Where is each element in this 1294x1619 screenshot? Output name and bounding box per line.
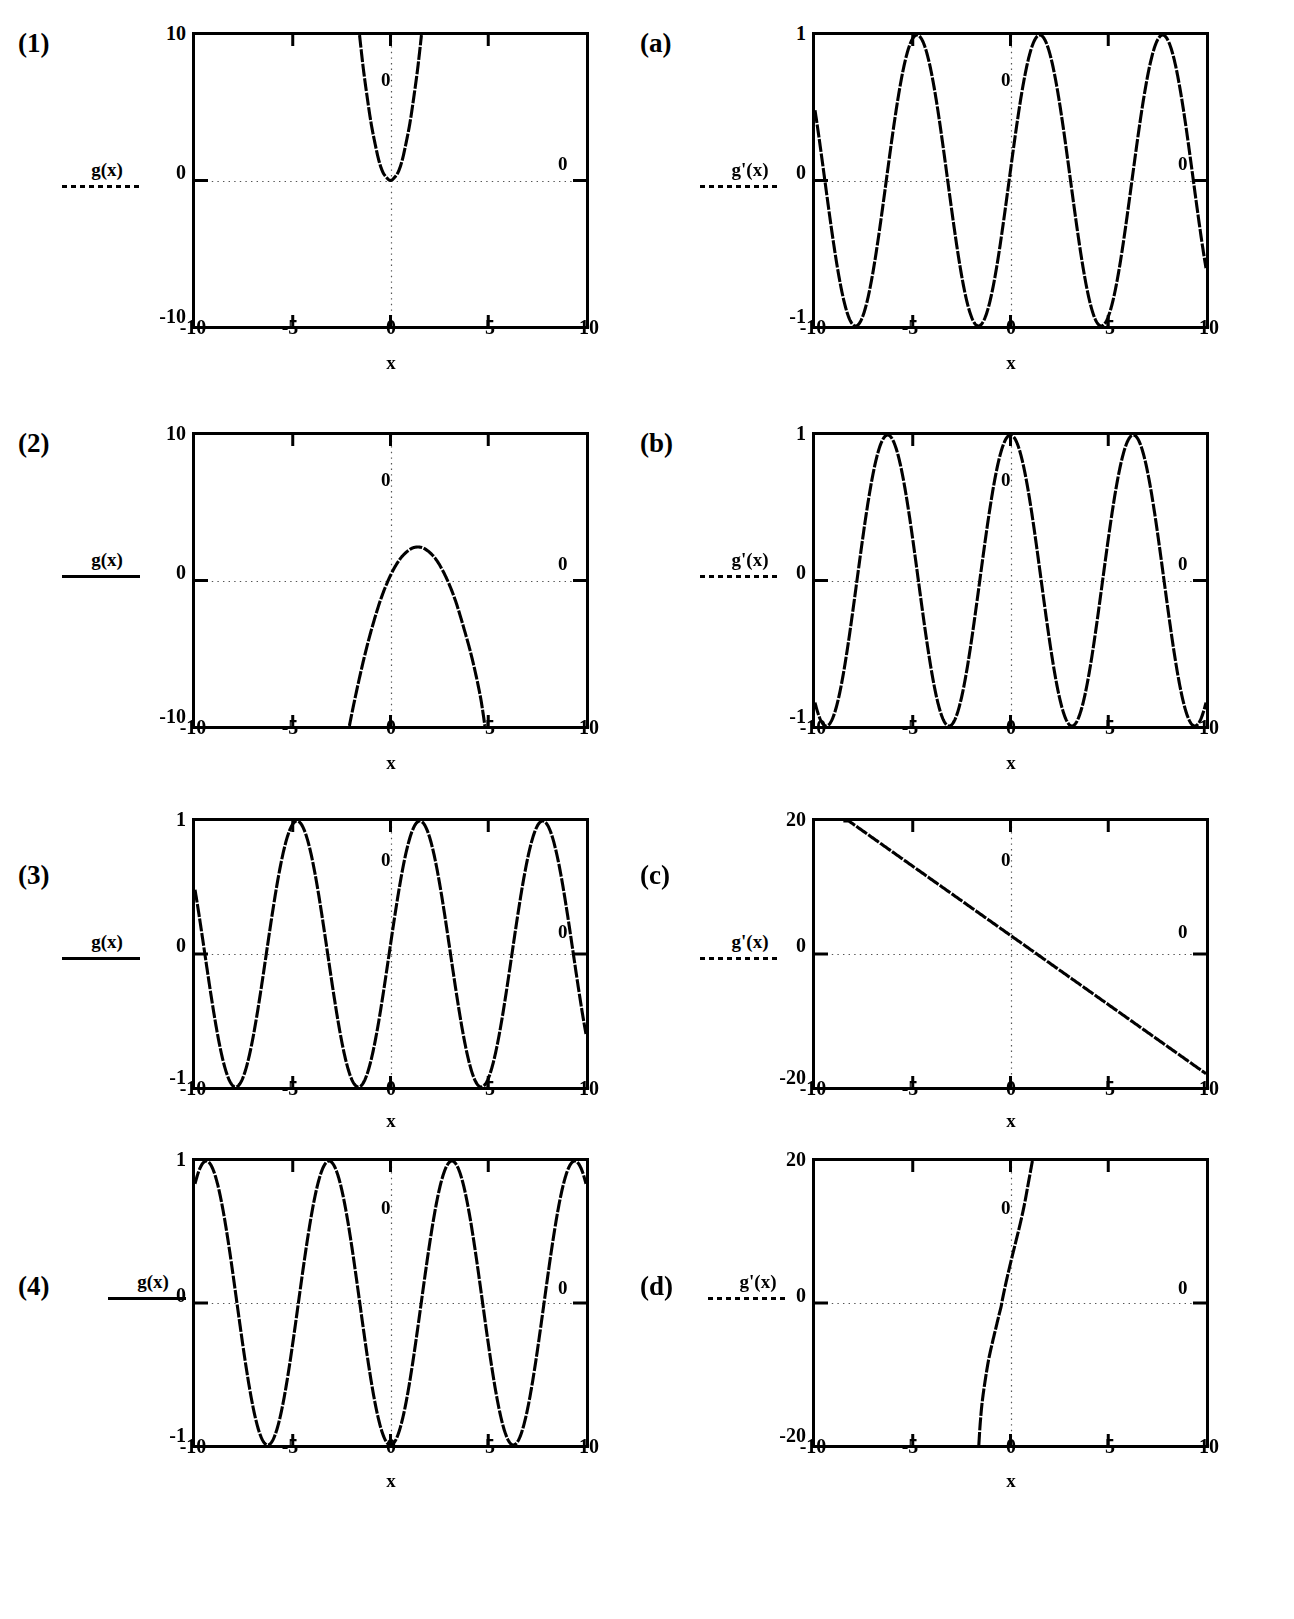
xaxis-title-3: x <box>361 1110 421 1132</box>
legend-rule-a <box>700 185 778 188</box>
inner-zero-top-b: 0 <box>1001 469 1011 491</box>
ytick-3-top: 1 <box>128 808 186 831</box>
panel-tag-4: (4) <box>18 1271 49 1302</box>
panel-tag-1: (1) <box>18 28 49 59</box>
inner-zero-top-4: 0 <box>381 1197 391 1219</box>
legend-rule-1 <box>62 185 140 188</box>
xtick-d-0: -10 <box>783 1435 843 1458</box>
xaxis-title-2: x <box>361 752 421 774</box>
xaxis-title-b: x <box>981 752 1041 774</box>
inner-zero-top-3: 0 <box>381 849 391 871</box>
xtick-2-4: 10 <box>559 716 619 739</box>
xtick-b-3: 5 <box>1080 716 1140 739</box>
xtick-b-0: -10 <box>783 716 843 739</box>
ytick-2-mid: 0 <box>128 561 186 584</box>
plot-frame-c: 0 0 <box>812 818 1209 1090</box>
ytick-1-top: 10 <box>128 22 186 45</box>
xtick-3-2: 0 <box>361 1077 421 1100</box>
xaxis-title-1: x <box>361 352 421 374</box>
xtick-4-0: -10 <box>163 1435 223 1458</box>
ytick-4-mid: 0 <box>128 1284 186 1307</box>
plot-canvas-1 <box>195 35 586 326</box>
xtick-1-3: 5 <box>460 316 520 339</box>
xtick-d-4: 10 <box>1179 1435 1239 1458</box>
ytick-3-mid: 0 <box>128 934 186 957</box>
ytick-a-mid: 0 <box>748 161 806 184</box>
inner-zero-top-d: 0 <box>1001 1197 1011 1219</box>
xtick-2-2: 0 <box>361 716 421 739</box>
xtick-4-2: 0 <box>361 1435 421 1458</box>
plot-canvas-4 <box>195 1161 586 1445</box>
xtick-1-4: 10 <box>559 316 619 339</box>
xtick-c-0: -10 <box>783 1077 843 1100</box>
plot-frame-b: 0 0 <box>812 432 1209 729</box>
xtick-1-1: -5 <box>260 316 320 339</box>
inner-zero-right-3: 0 <box>558 921 568 943</box>
ytick-4-top: 1 <box>128 1148 186 1171</box>
inner-zero-right-2: 0 <box>558 553 568 575</box>
xtick-d-2: 0 <box>981 1435 1041 1458</box>
inner-zero-right-a: 0 <box>1178 153 1188 175</box>
xaxis-title-d: x <box>981 1470 1041 1492</box>
panel-tag-c: (c) <box>640 860 670 891</box>
panel-tag-a: (a) <box>640 28 671 59</box>
xtick-2-0: -10 <box>163 716 223 739</box>
panel-tag-3: (3) <box>18 860 49 891</box>
xtick-3-3: 5 <box>460 1077 520 1100</box>
xtick-1-2: 0 <box>361 316 421 339</box>
inner-zero-right-1: 0 <box>558 153 568 175</box>
plot-frame-3: 0 0 <box>192 818 589 1090</box>
xtick-4-3: 5 <box>460 1435 520 1458</box>
xaxis-title-c: x <box>981 1110 1041 1132</box>
xtick-c-2: 0 <box>981 1077 1041 1100</box>
panel-tag-2: (2) <box>18 428 49 459</box>
xtick-c-4: 10 <box>1179 1077 1239 1100</box>
plot-frame-4: 0 0 <box>192 1158 589 1448</box>
plot-canvas-d <box>815 1161 1206 1445</box>
xtick-3-0: -10 <box>163 1077 223 1100</box>
ytick-2-top: 10 <box>128 422 186 445</box>
xtick-1-0: -10 <box>163 316 223 339</box>
ytick-1-mid: 0 <box>128 161 186 184</box>
ytick-b-top: 1 <box>748 422 806 445</box>
panel-tag-d: (d) <box>640 1271 673 1302</box>
xtick-b-1: -5 <box>880 716 940 739</box>
ytick-d-mid: 0 <box>748 1284 806 1307</box>
xtick-3-4: 10 <box>559 1077 619 1100</box>
xtick-b-2: 0 <box>981 716 1041 739</box>
ytick-a-top: 1 <box>748 22 806 45</box>
xtick-2-3: 5 <box>460 716 520 739</box>
ytick-c-top: 20 <box>738 808 806 831</box>
xtick-c-3: 5 <box>1080 1077 1140 1100</box>
plot-canvas-c <box>815 821 1206 1087</box>
xaxis-title-a: x <box>981 352 1041 374</box>
xtick-d-1: -5 <box>880 1435 940 1458</box>
plot-canvas-3 <box>195 821 586 1087</box>
inner-zero-top-2: 0 <box>381 469 391 491</box>
xtick-a-1: -5 <box>880 316 940 339</box>
xtick-2-1: -5 <box>260 716 320 739</box>
ytick-b-mid: 0 <box>748 561 806 584</box>
xtick-3-1: -5 <box>260 1077 320 1100</box>
inner-zero-top-1: 0 <box>381 69 391 91</box>
legend-rule-c <box>700 957 778 960</box>
inner-zero-right-d: 0 <box>1178 1277 1188 1299</box>
plot-frame-a: 0 0 <box>812 32 1209 329</box>
xtick-c-1: -5 <box>880 1077 940 1100</box>
xtick-a-2: 0 <box>981 316 1041 339</box>
inner-zero-top-c: 0 <box>1001 849 1011 871</box>
plot-canvas-2 <box>195 435 586 726</box>
xtick-d-3: 5 <box>1080 1435 1140 1458</box>
plot-canvas-b <box>815 435 1206 726</box>
xtick-4-1: -5 <box>260 1435 320 1458</box>
xtick-a-3: 5 <box>1080 316 1140 339</box>
plot-frame-1: 0 0 <box>192 32 589 329</box>
plot-frame-d: 0 0 <box>812 1158 1209 1448</box>
xtick-b-4: 10 <box>1179 716 1239 739</box>
inner-zero-right-4: 0 <box>558 1277 568 1299</box>
legend-rule-3 <box>62 957 140 960</box>
xtick-a-4: 10 <box>1179 316 1239 339</box>
plot-frame-2: 0 0 <box>192 432 589 729</box>
xtick-4-4: 10 <box>559 1435 619 1458</box>
panel-tag-b: (b) <box>640 428 673 459</box>
